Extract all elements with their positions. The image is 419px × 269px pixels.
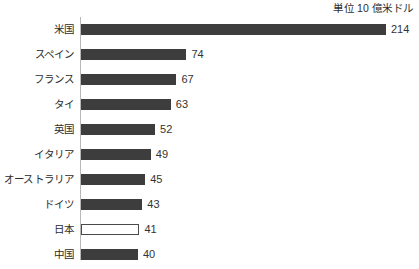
bar-row: 米国214 xyxy=(0,17,419,42)
category-label: 日本 xyxy=(0,217,74,242)
category-label: フランス xyxy=(0,67,74,92)
category-label: スペイン xyxy=(0,42,74,67)
bar-track: 41 xyxy=(81,217,419,242)
bar-track: 74 xyxy=(81,42,419,67)
bar-row: フランス67 xyxy=(0,67,419,92)
bar-rows: 米国214スペイン74フランス67タイ63英国52イタリア49オーストラリア45… xyxy=(0,17,419,267)
category-label: ドイツ xyxy=(0,192,74,217)
bar xyxy=(81,99,171,110)
bar-track: 63 xyxy=(81,92,419,117)
bar-track: 45 xyxy=(81,167,419,192)
category-label: イタリア xyxy=(0,142,74,167)
bar xyxy=(81,174,145,185)
bar xyxy=(81,199,142,210)
bar-value-label: 52 xyxy=(160,124,172,135)
bar xyxy=(81,249,138,260)
bar-track: 52 xyxy=(81,117,419,142)
bar-row: 英国52 xyxy=(0,117,419,142)
bar-row: イタリア49 xyxy=(0,142,419,167)
bar xyxy=(81,149,151,160)
category-label: 中国 xyxy=(0,242,74,267)
bar xyxy=(81,74,176,85)
bar-row: ドイツ43 xyxy=(0,192,419,217)
bar-row: タイ63 xyxy=(0,92,419,117)
category-label: タイ xyxy=(0,92,74,117)
bar xyxy=(81,124,155,135)
bar-track: 214 xyxy=(81,17,419,42)
bar xyxy=(81,49,186,60)
bar-row: 中国40 xyxy=(0,242,419,267)
bar xyxy=(81,224,139,235)
bar-value-label: 40 xyxy=(143,249,155,260)
bar-value-label: 63 xyxy=(176,99,188,110)
bar-value-label: 45 xyxy=(150,174,162,185)
bar xyxy=(81,24,386,35)
category-label: 米国 xyxy=(0,17,74,42)
bar-track: 67 xyxy=(81,67,419,92)
unit-caption: 単位 10 億米ドル xyxy=(333,2,413,15)
bar-value-label: 41 xyxy=(144,224,156,235)
category-label: オーストラリア xyxy=(0,167,74,192)
bar-value-label: 214 xyxy=(391,24,409,35)
bar-row: オーストラリア45 xyxy=(0,167,419,192)
bar-value-label: 49 xyxy=(156,149,168,160)
plot-area: 米国214スペイン74フランス67タイ63英国52イタリア49オーストラリア45… xyxy=(0,17,419,267)
bar-track: 43 xyxy=(81,192,419,217)
bar-value-label: 67 xyxy=(181,74,193,85)
bar-track: 49 xyxy=(81,142,419,167)
bar-chart: 単位 10 億米ドル 米国214スペイン74フランス67タイ63英国52イタリア… xyxy=(0,0,419,269)
bar-value-label: 43 xyxy=(147,199,159,210)
bar-value-label: 74 xyxy=(191,49,203,60)
bar-row: 日本41 xyxy=(0,217,419,242)
category-label: 英国 xyxy=(0,117,74,142)
bar-track: 40 xyxy=(81,242,419,267)
bar-row: スペイン74 xyxy=(0,42,419,67)
